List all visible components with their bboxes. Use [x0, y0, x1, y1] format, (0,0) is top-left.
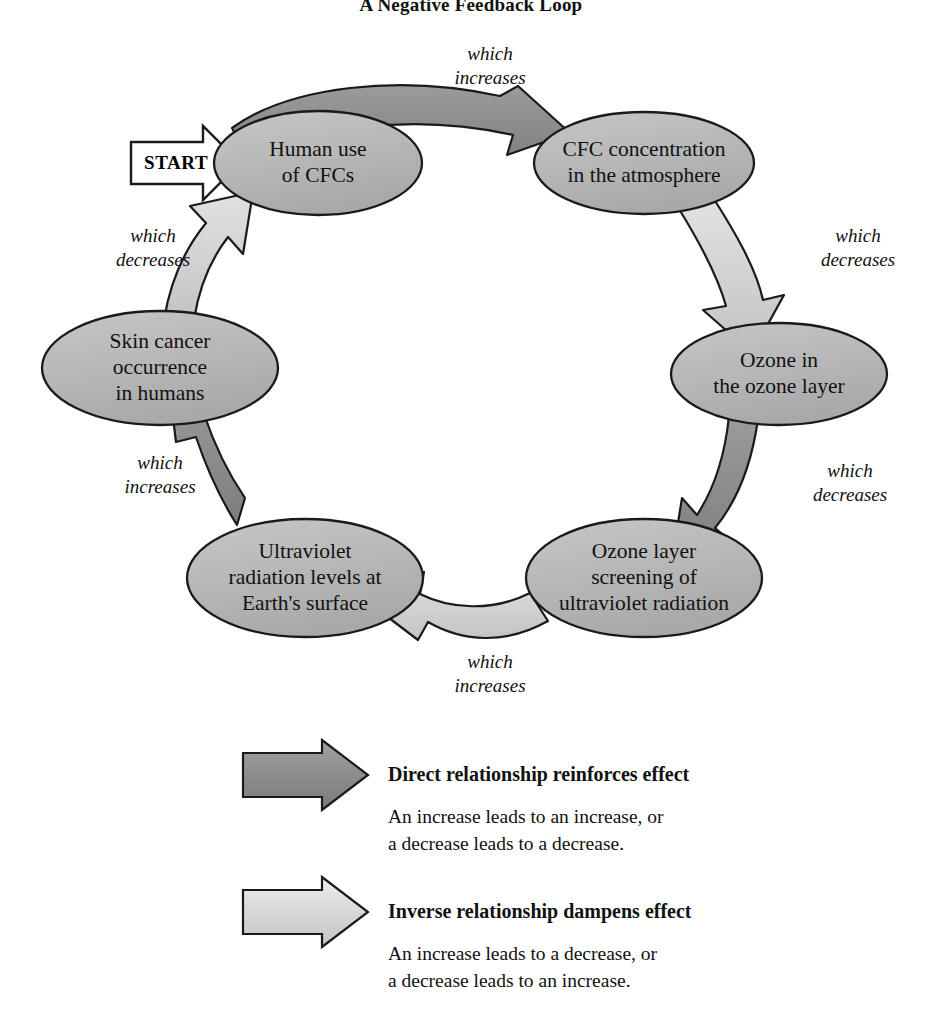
legend-direct-description: An increase leads to an increase, or a d… — [388, 803, 808, 857]
edge-label-human-to-cfc: which increases — [400, 42, 580, 90]
node-ozone-screening — [526, 519, 762, 637]
edge-label-uv-to-skin-cancer: which increases — [85, 451, 235, 499]
start-label: START — [144, 152, 208, 174]
node-skin-cancer — [42, 311, 278, 425]
legend-inverse-arrow — [243, 877, 368, 947]
edge-label-skin-cancer-to-human: which decreases — [78, 224, 228, 272]
node-human-use-of-cfcs — [214, 111, 422, 215]
node-cfc-concentration — [534, 112, 754, 214]
node-ozone-in-layer — [671, 323, 887, 425]
legend-direct-arrow — [243, 740, 368, 810]
legend-inverse-title: Inverse relationship dampens effect — [388, 900, 692, 923]
node-uv-radiation-levels — [187, 519, 423, 637]
edge-label-cfc-to-ozone: which decreases — [783, 224, 933, 272]
legend-direct-title: Direct relationship reinforces effect — [388, 763, 689, 786]
feedback-loop-diagram: A Negative Feedback Loop — [0, 0, 942, 1009]
edge-label-ozone-to-screening: which decreases — [775, 459, 925, 507]
legend-inverse-description: An increase leads to a decrease, or a de… — [388, 940, 808, 994]
edge-label-screening-to-uv: which increases — [400, 650, 580, 698]
